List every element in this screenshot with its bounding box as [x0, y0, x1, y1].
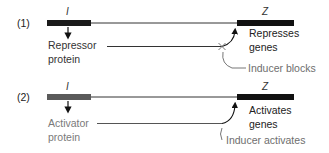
- panel-1-effect-line1: Represses: [249, 27, 299, 40]
- panel-2-target-gene-label: Z: [262, 81, 268, 92]
- panel-2-protein-label-line2: protein: [48, 131, 80, 144]
- target-gene-bar: [237, 20, 294, 26]
- inducer-curve: [223, 52, 246, 68]
- panel-2-inducer-label: Inducer activates: [226, 134, 305, 147]
- panel-1-number: (1): [17, 17, 30, 30]
- inducer-curve: [221, 128, 223, 140]
- panel-2-number: (2): [17, 91, 30, 104]
- regulator-gene-bar: [47, 20, 91, 26]
- target-gene-bar: [237, 94, 294, 100]
- panel-1-target-gene-label: Z: [262, 6, 268, 17]
- panel-1-effect-line2: genes: [249, 41, 278, 54]
- regulator-gene-bar: [47, 94, 91, 100]
- panel-1-inducer-label: Inducer blocks: [248, 62, 316, 75]
- panel-1-regulator-gene-label: I: [66, 6, 69, 17]
- binding-curve-arrow-icon: [222, 105, 235, 124]
- panel-1-protein-label-line1: Repressor: [48, 39, 96, 52]
- panel-2-effect-line1: Activates: [249, 104, 292, 117]
- panel-2-effect-line2: genes: [249, 118, 278, 131]
- panel-2-regulator-gene-label: I: [66, 81, 69, 92]
- panel-2-protein-label-line1: Activator: [48, 117, 89, 130]
- panel-1-protein-label-line2: protein: [48, 53, 80, 66]
